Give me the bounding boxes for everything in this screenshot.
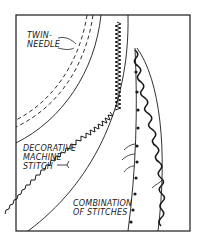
decorative-zigzag-stitch <box>5 22 121 214</box>
twin-needle-arrow-2 <box>58 48 74 50</box>
combination-wavy-stitch <box>134 50 164 226</box>
label-decorative-line1: DECORATIVE <box>23 144 76 153</box>
label-decorative-line2: MACHINE <box>23 153 76 162</box>
label-twin-needle-line1: TWIN- <box>27 31 60 40</box>
stitch-illustration: TWIN- NEEDLE DECORATIVE MACHINE STITCH C… <box>0 0 201 248</box>
label-combination-stitches: COMBINATION OF STITCHES <box>73 199 132 217</box>
label-decorative-stitch: DECORATIVE MACHINE STITCH <box>23 144 76 171</box>
combination-arrow-3 <box>124 166 134 172</box>
combination-arrow-1 <box>124 144 136 150</box>
label-combination-line2: OF STITCHES <box>73 208 132 217</box>
label-twin-needle: TWIN- NEEDLE <box>27 31 60 49</box>
label-decorative-line3: STITCH <box>23 162 76 171</box>
fabric-edge-3 <box>137 48 162 231</box>
combination-arrow-2 <box>122 154 135 160</box>
twin-needle-arrow-1 <box>58 37 76 44</box>
label-twin-needle-line2: NEEDLE <box>27 40 60 49</box>
label-combination-line1: COMBINATION <box>73 199 132 208</box>
